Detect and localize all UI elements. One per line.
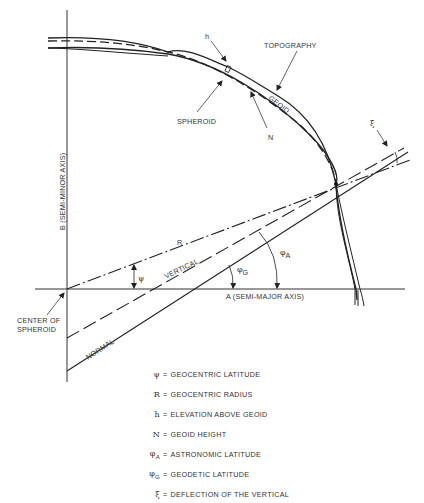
legend-equals: = <box>163 470 168 479</box>
topography-lower-curve <box>336 184 364 306</box>
phi-g-angle-arc <box>229 265 233 288</box>
station-point <box>334 182 338 186</box>
legend-symbol: R <box>148 390 160 399</box>
label-vertical: VERTICAL <box>163 257 200 281</box>
legend-symbol: φG <box>148 469 160 480</box>
topography-leader <box>277 51 297 90</box>
label-center-line1: CENTER OF <box>17 316 61 325</box>
label-phi-g: φG <box>237 265 249 277</box>
legend-equals: = <box>163 370 168 379</box>
legend-text: GEOCENTRIC RADIUS <box>171 390 253 399</box>
label-r: R <box>177 238 182 247</box>
legend-row-n: N=GEOID HEIGHT <box>148 424 289 444</box>
label-phi-a: φA <box>280 248 291 260</box>
label-semi-major-axis: A (SEMI-MAJOR AXIS) <box>226 292 304 301</box>
legend-symbol: ξ <box>148 490 160 499</box>
phi-a-angle-arc <box>259 232 277 288</box>
label-n: N <box>268 133 273 142</box>
legend-equals: = <box>163 430 168 439</box>
legend-text: GEODETIC LATITUDE <box>171 470 250 479</box>
legend-text: DEFLECTION OF THE VERTICAL <box>171 490 290 499</box>
label-semi-minor-axis: B (SEMI-MINOR AXIS) <box>58 153 67 230</box>
legend-text: GEOID HEIGHT <box>171 430 227 439</box>
legend-symbol: ψ <box>148 370 160 379</box>
label-spheroid: SPHEROID <box>177 117 216 126</box>
label-normal: NORMAL <box>84 337 116 362</box>
legend-text: ELEVATION ABOVE GEOID <box>171 410 268 419</box>
legend-equals: = <box>163 390 168 399</box>
h-leader <box>211 41 226 61</box>
label-h: h <box>205 32 209 41</box>
legend-equals: = <box>163 450 168 459</box>
xi-angle-arc <box>395 152 397 163</box>
label-center-line2: SPHEROID <box>17 325 56 334</box>
legend-row-h: h=ELEVATION ABOVE GEOID <box>148 404 289 424</box>
normal-line <box>67 152 408 371</box>
vertical-line <box>67 148 404 338</box>
center-leader <box>47 293 64 315</box>
legend-text: GEOCENTRIC LATITUDE <box>171 370 261 379</box>
label-psi: ψ <box>138 274 144 283</box>
legend-row-psi: ψ=GEOCENTRIC LATITUDE <box>148 364 289 384</box>
legend-equals: = <box>163 490 168 499</box>
legend-row-phi-g: φG=GEODETIC LATITUDE <box>148 464 289 484</box>
geoid-curve <box>48 41 336 184</box>
legend-symbol: N <box>148 430 160 439</box>
legend-row-r: R=GEOCENTRIC RADIUS <box>148 384 289 404</box>
legend-row-phi-a: φA=ASTRONOMIC LATITUDE <box>148 444 289 464</box>
xi-leader <box>377 130 387 146</box>
legend-symbol: φA <box>148 449 160 460</box>
legend-symbol: h <box>148 410 160 419</box>
spheroid-leader <box>197 81 222 112</box>
label-xi: ξ <box>370 119 375 128</box>
legend-equals: = <box>163 410 168 419</box>
legend: ψ=GEOCENTRIC LATITUDE R=GEOCENTRIC RADIU… <box>148 364 289 503</box>
label-topography: TOPOGRAPHY <box>264 41 317 50</box>
legend-row-xi: ξ=DEFLECTION OF THE VERTICAL <box>148 484 289 503</box>
legend-text: ASTRONOMIC LATITUDE <box>171 450 262 459</box>
